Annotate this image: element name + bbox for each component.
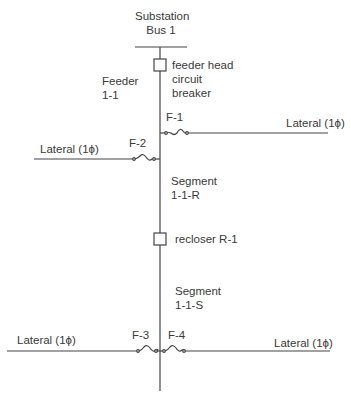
feeder-label: Feeder 1-1	[102, 74, 138, 102]
feeder-head-breaker-icon[interactable]	[154, 59, 166, 71]
feeder-label-line2: 1-1	[102, 88, 138, 102]
substation-label: Substation Bus 1	[135, 9, 187, 37]
recloser-icon[interactable]	[154, 233, 166, 245]
segment-s-label: Segment 1-1-S	[175, 284, 221, 312]
fuse-f2-icon	[135, 155, 154, 160]
fuse-f2-label: F-2	[129, 136, 146, 150]
fuse-f4-label: F-4	[168, 328, 185, 342]
fuse-f4-icon	[165, 346, 184, 351]
feeder-label-line1: Feeder	[102, 74, 138, 88]
breaker-label-line2: circuit	[172, 72, 233, 86]
fuse-f1-icon	[166, 129, 187, 134]
segment-r-label-line1: Segment	[171, 174, 217, 188]
segment-s-label-line2: 1-1-S	[175, 298, 221, 312]
substation-label-line2: Bus 1	[135, 23, 187, 37]
breaker-label-line3: breaker	[172, 86, 233, 100]
fuse-f1-label: F-1	[166, 110, 183, 124]
segment-r-label: Segment 1-1-R	[171, 174, 217, 202]
lateral-upper-right	[160, 129, 328, 134]
segment-r-label-line2: 1-1-R	[171, 188, 217, 202]
breaker-label: feeder head circuit breaker	[172, 58, 233, 100]
lateral-upper-left-label: Lateral (1ϕ)	[40, 142, 99, 156]
lateral-lower-left-label: Lateral (1ϕ)	[17, 333, 76, 347]
recloser-label: recloser R-1	[175, 232, 238, 246]
substation-label-line1: Substation	[135, 9, 187, 23]
segment-s-label-line1: Segment	[175, 284, 221, 298]
lateral-upper-right-label: Lateral (1ϕ)	[286, 116, 345, 130]
lateral-lower-right-label: Lateral (1ϕ)	[274, 336, 333, 350]
fuse-f3-label: F-3	[132, 328, 149, 342]
breaker-label-line1: feeder head	[172, 58, 233, 72]
